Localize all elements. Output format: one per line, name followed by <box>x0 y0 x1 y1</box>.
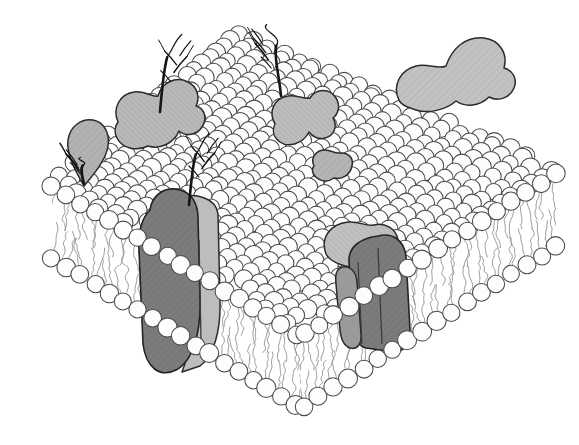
lipid-head-inner-leaflet <box>487 275 504 292</box>
carbohydrate-sub-branch <box>159 40 165 51</box>
fluid-mosaic-membrane-illustration: Fluid Mosaic Model of the Plasma Membran… <box>0 0 579 445</box>
fatty-acid-tail <box>558 180 560 210</box>
lipid-head-inner-leaflet <box>443 304 460 321</box>
carbohydrate-terminal-branch <box>167 34 182 57</box>
membrane-diagram-canvas: Fluid Mosaic Model of the Plasma Membran… <box>0 0 579 445</box>
lipid-head-outer-leaflet <box>547 164 566 183</box>
lipid-head-outer-leaflet <box>517 184 535 202</box>
carbohydrate-branch <box>180 41 191 56</box>
lipid-head-inner-leaflet <box>129 301 146 318</box>
lipid-head-inner-leaflet <box>546 237 564 255</box>
lipid-head-inner-leaflet <box>171 327 189 345</box>
peripheral-protein-lobed-upper-center <box>272 91 339 145</box>
carbohydrate-sub-branch <box>60 143 66 154</box>
carbohydrate-sub-branch <box>187 46 194 57</box>
lipid-head-inner-leaflet <box>503 265 520 282</box>
lipid-head-outer-leaflet <box>443 231 460 248</box>
lipid-head-outer-leaflet <box>412 250 431 269</box>
peripheral-protein-peanut-upper-right <box>396 38 515 112</box>
lipid-head-inner-leaflet <box>71 265 89 283</box>
lipid-head-inner-leaflet <box>339 369 358 388</box>
lipid-head-outer-leaflet <box>143 238 161 256</box>
lipid-head-outer-leaflet <box>272 316 290 334</box>
fatty-acid-tail <box>44 192 51 222</box>
fatty-acid-tail <box>41 222 50 252</box>
lipid-head-outer-leaflet <box>383 269 402 288</box>
